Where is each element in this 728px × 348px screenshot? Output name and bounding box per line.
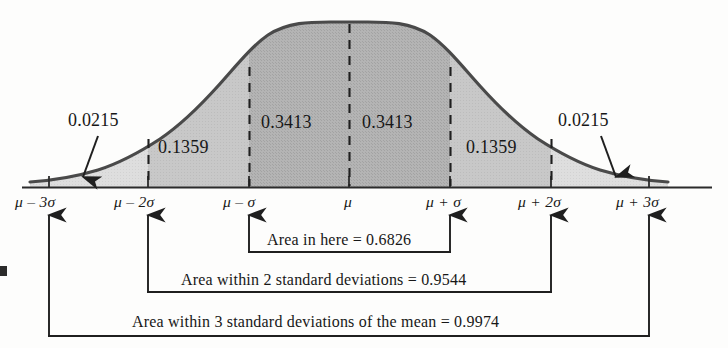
area-label-1: 0.1359 (158, 138, 209, 156)
page-edge-mark (0, 266, 7, 276)
axis-label-minus-2-sigma: μ – 2σ (114, 194, 154, 210)
axis-label-plus-3-sigma: μ + 3σ (616, 194, 659, 210)
axis-label-plus-2-sigma: μ + 2σ (518, 194, 561, 210)
area-label-4: 0.1359 (466, 138, 517, 156)
curve-shading (0, 0, 728, 190)
two-sigma-bracket-caption: Area within 2 standard deviations = 0.95… (176, 272, 471, 288)
axis-label-minus-1-sigma: μ – σ (223, 194, 255, 210)
area-label-0: 0.0215 (68, 111, 119, 129)
figure-canvas (0, 0, 728, 348)
area-label-2: 0.3413 (261, 113, 312, 131)
axis-label-minus-3-sigma: μ – 3σ (15, 194, 55, 210)
normal-distribution-figure: 0.0215 0.1359 0.3413 0.3413 0.1359 0.021… (0, 0, 728, 348)
area-label-5: 0.0215 (558, 111, 609, 129)
three-sigma-bracket-caption: Area within 3 standard deviations of the… (127, 314, 504, 330)
axis-label-plus-1-sigma: μ + σ (426, 194, 461, 210)
area-label-3: 0.3413 (362, 113, 413, 131)
one-sigma-bracket-caption: Area in here = 0.6826 (262, 232, 416, 248)
axis-label-mean: μ (344, 194, 352, 210)
